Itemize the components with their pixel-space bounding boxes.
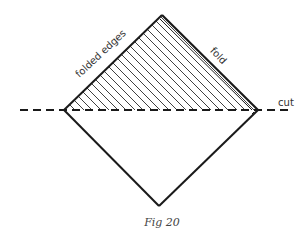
hatching (0, 15, 254, 110)
fold-line (162, 15, 258, 110)
folded-edges-label: folded edges (73, 27, 128, 79)
lower-left-edge (64, 110, 159, 206)
paper-fold-diagram: folded edges fold cut Fig 20 (0, 0, 306, 239)
lower-right-edge (159, 110, 258, 206)
figure-caption: Fig 20 (143, 216, 180, 229)
folded-edges-line (64, 15, 162, 110)
cut-label: cut (278, 97, 294, 108)
